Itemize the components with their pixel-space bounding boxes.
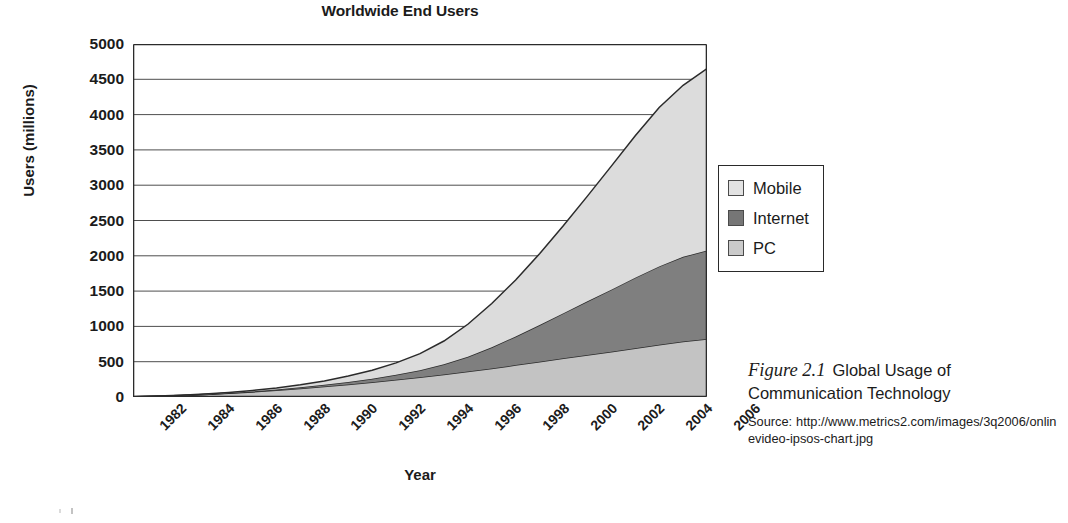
source-label: Source: — [748, 414, 796, 429]
area-series-group — [133, 69, 707, 397]
x-tick-label: 2004 — [682, 400, 715, 433]
x-tick-label: 2000 — [587, 400, 620, 433]
legend-item-pc[interactable]: PC — [728, 233, 809, 263]
figure-source: Source:http://www.metrics2.com/images/3q… — [748, 413, 1060, 448]
y-tick-label: 2500 — [36, 213, 124, 229]
figure-container: Worldwide End Users Users (millions) 050… — [0, 0, 1068, 523]
y-tick-label: 2000 — [36, 248, 124, 264]
scan-artifact — [45, 508, 85, 514]
y-tick-label: 500 — [36, 354, 124, 370]
x-tick-label: 1992 — [395, 400, 428, 433]
legend-label: Internet — [753, 210, 809, 227]
legend-item-internet[interactable]: Internet — [728, 203, 809, 233]
x-tick-label: 1986 — [252, 400, 285, 433]
stacked-area-chart-svg — [133, 44, 707, 397]
chart-legend: MobileInternetPC — [718, 165, 824, 272]
x-tick-label: 1982 — [156, 400, 189, 433]
y-tick-label: 0 — [36, 389, 124, 405]
legend-swatch-icon — [728, 210, 744, 226]
y-tick-label: 1000 — [36, 318, 124, 334]
figure-caption-block: Figure 2.1Global Usage of Communication … — [748, 358, 1060, 447]
y-axis-tick-labels: 0500100015002000250030003500400045005000 — [36, 34, 124, 406]
x-tick-label: 1994 — [443, 400, 476, 433]
y-tick-label: 4500 — [36, 71, 124, 87]
x-tick-label: 2002 — [634, 400, 667, 433]
x-tick-label: 1984 — [204, 400, 237, 433]
x-axis-title: Year — [133, 466, 707, 483]
y-tick-label: 5000 — [36, 36, 124, 52]
legend-item-mobile[interactable]: Mobile — [728, 173, 809, 203]
legend-label: PC — [753, 240, 776, 257]
y-axis-title: Users (millions) — [20, 51, 37, 231]
figure-caption: Figure 2.1Global Usage of Communication … — [748, 358, 1060, 405]
x-tick-label: 1990 — [347, 400, 380, 433]
x-tick-label: 1988 — [300, 400, 333, 433]
y-tick-label: 1500 — [36, 283, 124, 299]
legend-swatch-icon — [728, 240, 744, 256]
y-tick-label: 4000 — [36, 107, 124, 123]
x-tick-label: 1998 — [539, 400, 572, 433]
figure-number: Figure 2.1 — [748, 360, 832, 380]
legend-label: Mobile — [753, 180, 802, 197]
x-tick-label: 1996 — [491, 400, 524, 433]
legend-swatch-icon — [728, 180, 744, 196]
x-axis-tick-labels: 1982198419861988199019921994199619982000… — [133, 400, 733, 460]
y-tick-label: 3000 — [36, 177, 124, 193]
plot-area — [133, 44, 707, 397]
y-tick-label: 3500 — [36, 142, 124, 158]
chart-title: Worldwide End Users — [120, 2, 680, 20]
